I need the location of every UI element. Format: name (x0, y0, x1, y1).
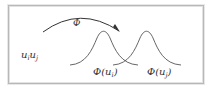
mapping-label: Φ (73, 19, 80, 28)
output-label-j: Φ(uj) (147, 67, 171, 79)
mapping-arrow (43, 18, 119, 32)
output-label-i: Φ(ui) (93, 67, 118, 79)
input-label: uiuj (21, 50, 38, 62)
gaussian-curve-j (113, 31, 181, 65)
gaussian-curve-i (70, 31, 138, 65)
